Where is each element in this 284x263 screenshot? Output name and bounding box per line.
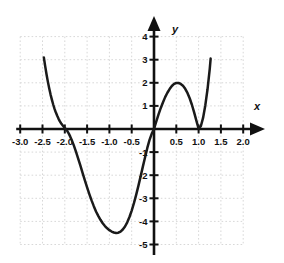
graph-container: -3.0-2.5-2.0-1.5-1.0-0.50.51.01.52.0 432… bbox=[0, 0, 284, 263]
x-tick-label: -0.5 bbox=[124, 136, 141, 147]
x-axis-label: x bbox=[253, 100, 261, 112]
y-tick-label: 1 bbox=[142, 100, 148, 111]
y-tick-label: -5 bbox=[139, 239, 148, 250]
x-tick-label: 1.5 bbox=[214, 136, 228, 147]
y-tick-label: -3 bbox=[139, 193, 147, 204]
coordinate-plane-chart: -3.0-2.5-2.0-1.5-1.0-0.50.51.01.52.0 432… bbox=[0, 0, 284, 263]
x-tick-label: -1.5 bbox=[79, 136, 96, 147]
x-tick-label: -2.5 bbox=[34, 136, 51, 147]
y-tick-label: 4 bbox=[142, 31, 148, 42]
x-axis-tick-labels: -3.0-2.5-2.0-1.5-1.0-0.50.51.01.52.0 bbox=[12, 136, 250, 147]
x-tick-label: -3.0 bbox=[12, 136, 28, 147]
x-tick-label: 1.0 bbox=[192, 136, 205, 147]
y-tick-label: 2 bbox=[142, 77, 147, 88]
x-tick-label: 0.5 bbox=[170, 136, 184, 147]
y-axis-label: y bbox=[171, 23, 179, 35]
y-tick-label: 3 bbox=[142, 54, 147, 65]
x-tick-label: -1.0 bbox=[101, 136, 117, 147]
y-tick-label: -4 bbox=[139, 216, 148, 227]
x-tick-label: 2.0 bbox=[237, 136, 250, 147]
